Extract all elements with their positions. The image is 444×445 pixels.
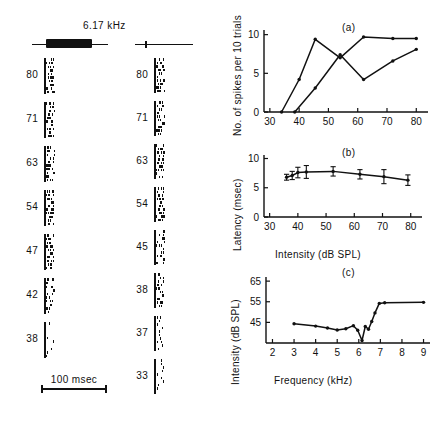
spike-tick	[162, 148, 163, 150]
spike-tick	[48, 219, 49, 222]
spike-tick	[52, 91, 53, 94]
spike-tick	[161, 187, 162, 189]
spike-tick	[50, 135, 51, 138]
spike-tick	[53, 223, 54, 226]
raster-level-label: 33	[124, 370, 148, 381]
spike-tick	[157, 112, 158, 114]
spike-tick	[48, 161, 49, 164]
spike-tick	[54, 154, 55, 157]
spike-tick	[49, 117, 50, 120]
spike-tick	[162, 294, 163, 296]
spike-tick	[159, 58, 160, 60]
spike-tick	[52, 208, 53, 211]
tone-burst-stimulus-trace	[32, 38, 108, 52]
spike-tick	[52, 113, 53, 116]
spike-tick	[158, 148, 159, 150]
spike-tick	[46, 307, 47, 310]
spike-tick	[157, 241, 158, 243]
spike-tick	[161, 284, 162, 286]
spike-tick	[156, 244, 157, 246]
spike-tick	[46, 168, 47, 171]
spike-tick	[163, 248, 164, 250]
spike-tick	[157, 191, 158, 193]
raster-level-label: 54	[14, 201, 38, 212]
spike-tick	[49, 322, 50, 325]
spike-tick	[54, 150, 55, 153]
spike-tick	[157, 373, 158, 375]
spike-tick	[162, 327, 163, 329]
spike-tick	[156, 287, 157, 289]
spike-tick	[163, 191, 164, 193]
spike-tick	[160, 86, 161, 88]
spike-tick	[157, 255, 158, 257]
spike-tick	[161, 341, 162, 343]
chart-tuning-curve: (c) Intensity (dB SPL) Frequency (kHz) 2…	[222, 267, 444, 402]
spike-tick	[53, 208, 54, 211]
spike-tick	[163, 237, 164, 239]
spike-tick	[159, 287, 160, 289]
spike-tick	[49, 168, 50, 171]
spike-tick	[161, 215, 162, 217]
spike-tick	[50, 106, 51, 109]
spike-tick	[53, 76, 54, 79]
spike-tick	[156, 169, 157, 171]
spike-tick	[49, 296, 50, 299]
spike-tick	[161, 251, 162, 253]
spike-tick	[160, 291, 161, 293]
raster-level-label: 54	[124, 198, 148, 209]
svg-text:3: 3	[291, 347, 297, 358]
spike-tick	[157, 198, 158, 200]
raster-level-label: 80	[14, 69, 38, 80]
spike-tick	[50, 242, 51, 245]
spike-tick	[158, 187, 159, 189]
raster-trial-block	[44, 146, 55, 182]
spike-tick	[47, 172, 48, 175]
spike-tick	[156, 86, 157, 88]
spike-tick	[47, 168, 48, 171]
spike-tick	[46, 194, 47, 197]
chart-c-x-axis-title: Frequency (kHz)	[274, 375, 352, 386]
spike-tick	[162, 158, 163, 160]
svg-text:6: 6	[356, 347, 362, 358]
spike-tick	[159, 320, 160, 322]
spike-tick	[162, 165, 163, 167]
spike-tick	[160, 212, 161, 214]
spike-tick	[53, 66, 54, 69]
spike-tick	[48, 73, 49, 76]
spike-tick	[159, 244, 160, 246]
svg-text:45: 45	[250, 317, 262, 328]
spike-tick	[53, 256, 54, 259]
spike-tick	[53, 212, 54, 215]
spike-tick	[48, 238, 49, 241]
spike-tick	[158, 280, 159, 282]
spike-tick	[161, 83, 162, 85]
stimulus-baseline	[135, 44, 193, 45]
svg-text:30: 30	[264, 116, 276, 127]
spike-tick	[161, 301, 162, 303]
spike-tick	[50, 249, 51, 252]
spike-tick	[52, 190, 53, 193]
spike-tick	[47, 87, 48, 90]
raster-level-label: 71	[14, 113, 38, 124]
spike-tick	[52, 201, 53, 204]
stimulus-frequency-label: 6.17 kHz	[83, 20, 126, 31]
spike-tick	[50, 245, 51, 248]
svg-text:5: 5	[253, 182, 259, 193]
raster-trial-block	[44, 58, 55, 94]
spike-tick	[157, 262, 158, 264]
spike-tick	[159, 234, 160, 236]
spike-tick	[50, 164, 51, 167]
spike-tick	[51, 58, 52, 61]
spike-tick	[162, 194, 163, 196]
spike-tick	[50, 252, 51, 255]
spike-tick	[51, 73, 52, 76]
spike-tick	[52, 293, 53, 296]
spike-tick	[48, 91, 49, 94]
spike-tick	[160, 165, 161, 167]
raster-trial-block	[154, 144, 165, 179]
spike-tick	[47, 234, 48, 237]
spike-tick	[157, 323, 158, 325]
panel-tag-a: (a)	[342, 22, 355, 33]
spike-tick	[159, 155, 160, 157]
spike-tick	[46, 296, 47, 299]
